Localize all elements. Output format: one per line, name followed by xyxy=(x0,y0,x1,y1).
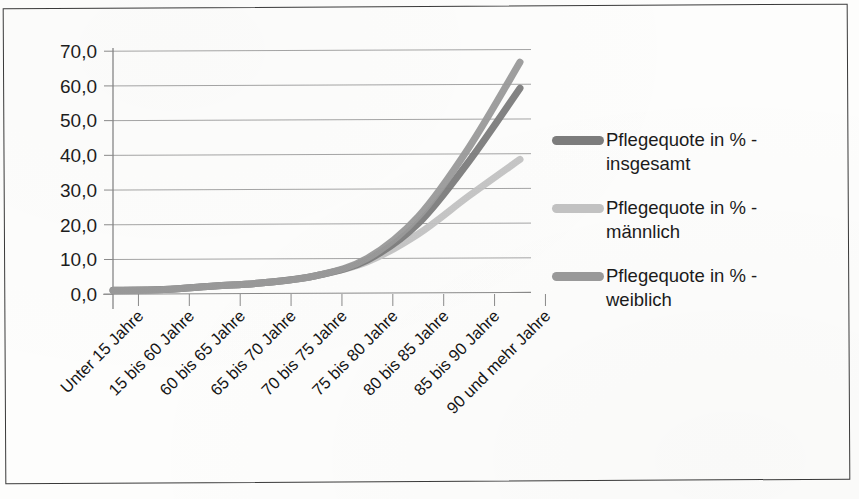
y-axis-tick-label: 0,0 xyxy=(71,284,97,305)
y-axis-tick-labels: 0,010,020,030,040,050,060,070,0 xyxy=(60,41,97,305)
x-axis-tick-labels: Unter 15 Jahre15 bis 60 Jahre60 bis 65 J… xyxy=(57,306,554,417)
legend-label-maennlich-line1: Pflegequote in % - xyxy=(606,197,757,218)
x-axis-ticks xyxy=(138,294,545,306)
y-axis-tick-label: 50,0 xyxy=(60,110,97,131)
y-axis-ticks xyxy=(104,51,113,294)
y-axis-tick-label: 40,0 xyxy=(60,145,97,166)
legend-item-insgesamt[interactable]: Pflegequote in % -insgesamt xyxy=(552,128,842,176)
y-axis-tick-label: 60,0 xyxy=(60,76,97,97)
legend-label-insgesamt-line2: insgesamt xyxy=(606,153,690,174)
axis-lines xyxy=(103,48,531,309)
chart-legend: Pflegequote in % -insgesamt Pflegequote … xyxy=(552,128,842,332)
legend-item-maennlich[interactable]: Pflegequote in % -männlich xyxy=(552,196,842,244)
legend-label-weiblich-line1: Pflegequote in % - xyxy=(606,265,757,286)
chart-screenshot: 0,010,020,030,040,050,060,070,0 Unter 15… xyxy=(0,0,859,499)
legend-swatch-insgesamt xyxy=(552,136,604,145)
y-axis-tick-label: 10,0 xyxy=(60,249,97,270)
y-axis-tick-label: 20,0 xyxy=(60,215,97,236)
legend-swatch-weiblich xyxy=(552,272,604,281)
legend-label-insgesamt-line1: Pflegequote in % - xyxy=(606,129,757,150)
legend-label-maennlich: Pflegequote in % -männlich xyxy=(606,196,757,244)
legend-label-insgesamt: Pflegequote in % -insgesamt xyxy=(606,128,757,176)
legend-label-weiblich: Pflegequote in % -weiblich xyxy=(606,264,757,312)
data-series-lines xyxy=(113,62,520,290)
legend-item-weiblich[interactable]: Pflegequote in % -weiblich xyxy=(552,264,842,312)
legend-label-maennlich-line2: männlich xyxy=(606,221,680,242)
chart-area: 0,010,020,030,040,050,060,070,0 Unter 15… xyxy=(0,0,859,499)
y-axis-tick-label: 30,0 xyxy=(60,180,97,201)
y-axis-tick-label: 70,0 xyxy=(60,41,97,62)
legend-label-weiblich-line2: weiblich xyxy=(606,289,672,310)
legend-swatch-maennlich xyxy=(552,204,604,213)
